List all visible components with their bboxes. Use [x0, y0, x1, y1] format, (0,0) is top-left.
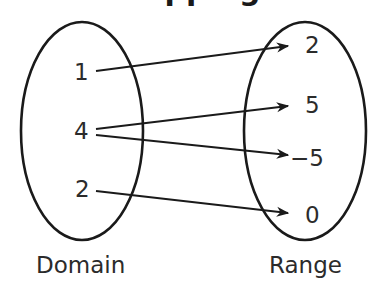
arrow-4-to-5 — [96, 106, 288, 129]
mapping-diagram: 1 4 2 2 5 −5 0 Domain Range — [0, 0, 375, 293]
range-value-0: 0 — [305, 202, 320, 228]
arrow-4-to-neg5 — [96, 135, 288, 155]
domain-value-2: 2 — [75, 176, 90, 202]
range-label: Range — [269, 252, 342, 278]
range-value-neg5: −5 — [290, 145, 324, 171]
domain-value-4: 4 — [74, 118, 89, 144]
range-value-2: 2 — [305, 32, 320, 58]
domain-value-1: 1 — [74, 59, 89, 85]
range-value-5: 5 — [305, 92, 320, 118]
domain-label: Domain — [36, 252, 125, 278]
